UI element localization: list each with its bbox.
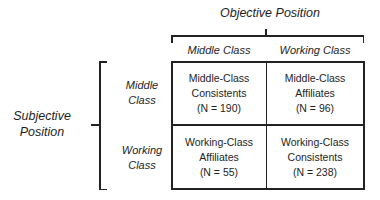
row-label-working-class: Working Class	[118, 143, 166, 173]
cell-count: (N = 238)	[293, 165, 337, 180]
objective-position-title: Objective Position	[210, 6, 330, 20]
table-right-border	[363, 61, 365, 190]
left-bracket-bottom-tick	[99, 189, 107, 191]
top-bracket-horizontal	[171, 35, 364, 37]
cell-count: (N = 55)	[200, 165, 238, 180]
column-header-working-class: Working Class	[266, 44, 364, 56]
cell-working-class-consistents: Working-Class Consistents (N = 238)	[267, 126, 363, 188]
left-bracket-top-tick	[99, 61, 107, 63]
cell-line1: Working-Class	[185, 135, 253, 150]
row-label-middle-class: Middle Class	[118, 78, 166, 108]
cell-line2: Consistents	[288, 150, 343, 165]
top-bracket-right-tick	[363, 35, 365, 43]
cell-working-class-affiliates: Working-Class Affiliates (N = 55)	[173, 126, 265, 188]
left-bracket-center-tick	[91, 124, 99, 126]
left-bracket-vertical	[99, 61, 101, 190]
cell-line2: Consistents	[192, 86, 247, 101]
cell-line2: Affiliates	[295, 86, 335, 101]
row-label-middle-line2: Class	[118, 93, 166, 108]
cell-line1: Middle-Class	[285, 71, 346, 86]
cell-line2: Affiliates	[199, 150, 239, 165]
cell-middle-class-affiliates: Middle-Class Affiliates (N = 96)	[267, 63, 363, 124]
row-label-middle-line1: Middle	[118, 78, 166, 93]
subjective-position-title: Subjective Position	[6, 108, 78, 140]
cell-count: (N = 96)	[296, 101, 334, 116]
top-bracket-center-tick	[265, 29, 267, 35]
cell-middle-class-consistents: Middle-Class Consistents (N = 190)	[173, 63, 265, 124]
subjective-position-line1: Subjective	[6, 108, 78, 124]
row-label-working-line2: Class	[118, 158, 166, 173]
column-header-middle-class: Middle Class	[172, 44, 266, 56]
table-bottom-border	[171, 188, 365, 190]
top-bracket-left-tick	[171, 35, 173, 43]
cell-line1: Working-Class	[281, 135, 349, 150]
subjective-position-line2: Position	[6, 124, 78, 140]
row-label-working-line1: Working	[118, 143, 166, 158]
cell-count: (N = 190)	[197, 101, 241, 116]
cell-line1: Middle-Class	[189, 71, 250, 86]
